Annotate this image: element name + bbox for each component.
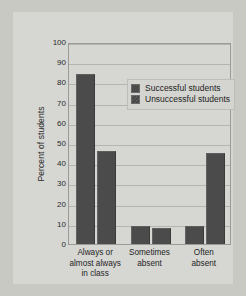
bar <box>185 226 204 244</box>
x-axis-label-line: in class <box>82 269 109 278</box>
legend-item: Unsuccessful students <box>131 95 230 104</box>
y-axis-tick-label: 60 <box>32 120 66 128</box>
bar <box>206 153 225 244</box>
y-axis-tick-label: 70 <box>32 100 66 108</box>
x-axis-category-label: Sometimesabsent <box>122 248 176 280</box>
legend-item: Successful students <box>131 84 230 93</box>
y-axis-tick-label: 10 <box>32 221 66 229</box>
x-axis-category-label: Oftenabsent <box>177 248 231 280</box>
y-axis-tick-label: 80 <box>32 79 66 87</box>
y-axis-tick-label: 100 <box>32 39 66 47</box>
x-axis-category-label: Always oralmost alwaysin class <box>68 248 122 280</box>
x-axis-label-line: absent <box>137 259 162 268</box>
y-axis-tick-label: 50 <box>32 140 66 148</box>
legend-label-successful: Successful students <box>145 84 221 93</box>
x-axis-labels: Always oralmost alwaysin classSometimesa… <box>68 248 231 280</box>
x-axis-label-line: Often <box>194 248 214 257</box>
x-axis-label-line: Sometimes <box>129 248 170 257</box>
chart-legend: Successful students Unsuccessful student… <box>127 79 235 110</box>
bar <box>152 228 171 244</box>
y-axis-tick-label: 30 <box>32 180 66 188</box>
x-axis-label-line: Always or <box>77 248 113 257</box>
bar-series-container <box>69 44 230 244</box>
y-axis-ticks: 1009080706050403020100 <box>30 43 66 245</box>
bar <box>97 151 116 244</box>
x-axis-label-line: absent <box>192 259 217 268</box>
plot-area: Successful students Unsuccessful student… <box>68 43 231 245</box>
y-axis-tick-label: 40 <box>32 160 66 168</box>
y-axis-tick-label: 0 <box>32 241 66 249</box>
chart-card: Percent of students 10090807060504030201… <box>13 12 233 284</box>
y-axis-tick-label: 20 <box>32 201 66 209</box>
legend-swatch-successful-icon <box>131 84 140 93</box>
chart-page: Percent of students 10090807060504030201… <box>0 0 246 296</box>
y-axis-tick-label: 90 <box>32 59 66 67</box>
legend-label-unsuccessful: Unsuccessful students <box>145 95 230 104</box>
legend-swatch-unsuccessful-icon <box>131 95 140 104</box>
bar <box>76 74 95 244</box>
x-axis-label-line: almost always <box>69 259 120 268</box>
bar <box>131 226 150 244</box>
